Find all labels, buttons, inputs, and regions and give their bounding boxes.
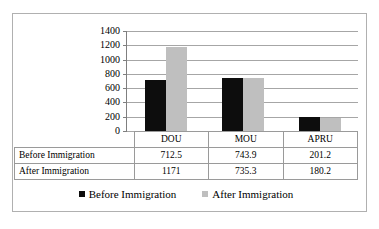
table-header-apru: APRU (283, 132, 358, 148)
legend-swatch-icon (79, 191, 85, 197)
y-axis-tick (123, 74, 127, 75)
chart-figure: 1400120010008006004002000 DOUMOUAPRUBefo… (0, 0, 379, 229)
y-axis-tick (123, 31, 127, 32)
gridline (127, 74, 358, 75)
table-cell: 743.9 (209, 148, 284, 164)
gridline (127, 45, 358, 46)
gridline (127, 60, 358, 61)
table-header-dou: DOU (134, 132, 209, 148)
table-corner-cell (15, 132, 135, 148)
bar-apru-after (320, 118, 341, 131)
bar-apru-before (299, 117, 320, 131)
legend-item[interactable]: After Immigration (202, 188, 293, 200)
y-axis-tick (123, 88, 127, 89)
y-axis-tick (123, 117, 127, 118)
y-axis-tick-label: 600 (30, 83, 120, 93)
data-table: DOUMOUAPRUBefore Immigration712.5743.920… (14, 131, 358, 180)
chart-legend: Before ImmigrationAfter Immigration (14, 184, 358, 204)
gridline (127, 31, 358, 32)
table-cell: 201.2 (283, 148, 358, 164)
bar-dou-before (145, 80, 166, 131)
table-row: After Immigration1171735.3180.2 (15, 164, 358, 180)
bar-mou-before (222, 78, 243, 131)
legend-swatch-icon (202, 191, 208, 197)
table-row-label: After Immigration (15, 164, 135, 180)
legend-label: After Immigration (212, 188, 293, 200)
y-axis-tick-label: 400 (30, 97, 120, 107)
legend-label: Before Immigration (89, 188, 177, 200)
table-cell: 180.2 (283, 164, 358, 180)
y-axis-tick-label: 1400 (30, 26, 120, 36)
data-table-body: DOUMOUAPRUBefore Immigration712.5743.920… (15, 132, 358, 180)
table-row-label: Before Immigration (15, 148, 135, 164)
plot-area (127, 31, 358, 131)
y-axis-tick-label: 1000 (30, 55, 120, 65)
table-cell: 735.3 (209, 164, 284, 180)
legend-item[interactable]: Before Immigration (79, 188, 177, 200)
y-axis-tick (123, 131, 127, 132)
y-axis-tick (123, 60, 127, 61)
y-axis-tick-label: 200 (30, 112, 120, 122)
y-axis-tick-label: 800 (30, 69, 120, 79)
table-cell: 712.5 (134, 148, 209, 164)
table-row: Before Immigration712.5743.9201.2 (15, 148, 358, 164)
y-axis-tick-label: 1200 (30, 40, 120, 50)
bar-dou-after (166, 47, 187, 131)
table-header-mou: MOU (209, 132, 284, 148)
y-axis-tick (123, 45, 127, 46)
bar-mou-after (243, 78, 264, 131)
y-axis-tick (123, 102, 127, 103)
table-header-row: DOUMOUAPRU (15, 132, 358, 148)
table-cell: 1171 (134, 164, 209, 180)
